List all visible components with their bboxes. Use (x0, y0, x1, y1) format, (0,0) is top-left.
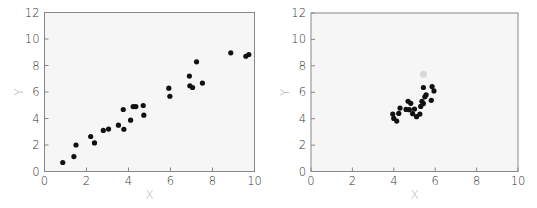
data-point (166, 86, 171, 91)
y-tick-label: 6 (32, 85, 39, 99)
data-point (92, 140, 97, 145)
y-tick-label: 6 (299, 85, 306, 99)
scatter-plot-right: 0246810024681012XY (268, 0, 536, 208)
data-point (423, 92, 428, 97)
x-tick-label: 0 (41, 174, 48, 188)
data-point (429, 98, 434, 103)
x-tick-label: 2 (349, 174, 356, 188)
x-tick-label: 8 (473, 174, 480, 188)
x-tick-label: 4 (125, 174, 132, 188)
y-tick-label: 2 (299, 138, 306, 152)
data-point (390, 111, 395, 116)
x-tick-label: 6 (432, 174, 439, 188)
data-point (407, 107, 412, 112)
data-point (228, 50, 233, 55)
data-point (121, 127, 126, 132)
chart-canvas-right: 0246810024681012XY (268, 0, 537, 208)
data-point (60, 160, 65, 165)
x-tick-label: 2 (83, 174, 90, 188)
data-point (141, 103, 146, 108)
plot-area (311, 13, 518, 172)
data-point (421, 85, 426, 90)
y-tick-label: 2 (32, 138, 39, 152)
y-tick-label: 0 (32, 165, 39, 179)
data-point (421, 101, 426, 106)
data-point (396, 111, 401, 116)
x-axis-label: X (410, 188, 418, 202)
y-axis-label: Y (12, 88, 26, 96)
x-tick-label: 4 (390, 174, 397, 188)
y-tick-label: 4 (32, 112, 39, 126)
x-tick-label: 0 (307, 174, 314, 188)
y-axis-label: Y (278, 88, 292, 96)
data-point (121, 107, 126, 112)
data-point (88, 134, 93, 139)
data-point (246, 52, 251, 57)
x-tick-label: 10 (511, 174, 526, 188)
y-tick-label: 12 (25, 6, 40, 20)
chart-canvas-left: 0246810024681012XY (0, 0, 268, 208)
y-tick-label: 0 (299, 165, 306, 179)
data-point (420, 71, 427, 78)
data-point (101, 128, 106, 133)
x-tick-label: 10 (247, 174, 262, 188)
data-point (190, 85, 195, 90)
scatter-plot-left: 0246810024681012XY (0, 0, 268, 208)
y-tick-label: 12 (291, 6, 306, 20)
data-point (417, 111, 422, 116)
data-point (431, 88, 436, 93)
x-axis-label: X (145, 188, 153, 202)
data-point (73, 142, 78, 147)
data-point (200, 81, 205, 86)
y-tick-label: 10 (291, 32, 306, 46)
data-point (128, 118, 133, 123)
data-point (187, 74, 192, 79)
data-point (71, 154, 76, 159)
plot-area (45, 13, 255, 172)
data-point (394, 118, 399, 123)
y-tick-label: 4 (299, 112, 306, 126)
data-point (194, 59, 199, 64)
data-point (106, 127, 111, 132)
data-point (397, 106, 402, 111)
data-point (133, 104, 138, 109)
data-point (412, 106, 417, 111)
data-point (141, 113, 146, 118)
x-tick-label: 8 (209, 174, 216, 188)
y-tick-label: 8 (299, 59, 306, 73)
y-tick-label: 10 (25, 32, 40, 46)
x-tick-label: 6 (167, 174, 174, 188)
data-point (167, 94, 172, 99)
y-tick-label: 8 (32, 59, 39, 73)
data-point (408, 101, 413, 106)
data-point (116, 123, 121, 128)
